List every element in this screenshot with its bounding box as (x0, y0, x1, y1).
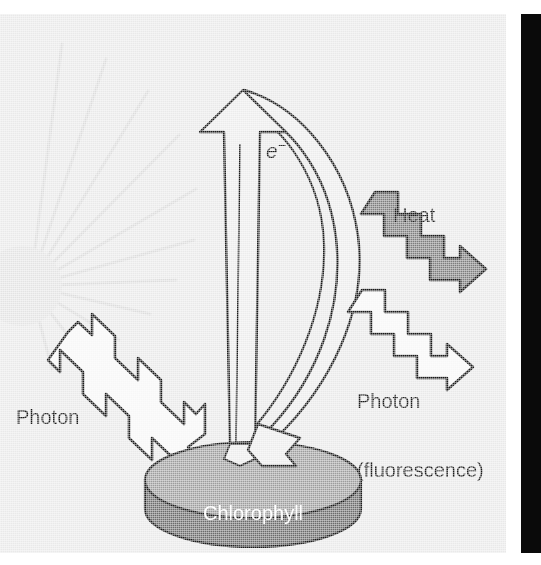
label-electron: e− (231, 111, 286, 185)
label-photon-incoming: Photon (16, 406, 79, 429)
label-heat: Heat (393, 204, 435, 227)
sun-rays-group (30, 44, 196, 369)
incoming-photon-arrow (48, 314, 205, 460)
figure-page: Heat Photon Photon (fluorescence) Chloro… (0, 0, 541, 565)
label-electron-charge: − (278, 137, 286, 153)
label-chlorophyll-line1: Chlorophyll (160, 502, 346, 525)
label-photon-fluorescence: Photon (fluorescence) (357, 344, 484, 528)
label-photon-fluorescence-line1: Photon (357, 390, 484, 413)
label-chlorophyll-molecule: Chlorophyll molecule (160, 456, 346, 553)
label-photon-fluorescence-line2: (fluorescence) (357, 459, 484, 482)
illustration-panel: Heat Photon Photon (fluorescence) Chloro… (0, 14, 506, 553)
right-edge-bar (521, 14, 541, 553)
label-electron-symbol: e (266, 139, 278, 162)
